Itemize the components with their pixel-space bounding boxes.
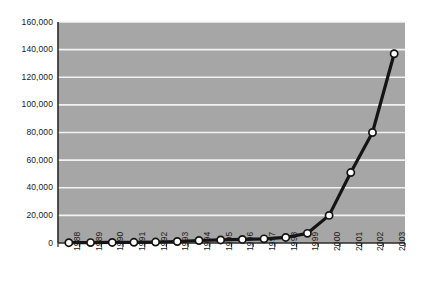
data-point-marker[interactable] xyxy=(391,50,398,57)
y-axis-tick-label: 0 xyxy=(48,239,53,248)
x-axis-tick-label: 1991 xyxy=(138,232,147,251)
y-axis-tick-label: 40,000 xyxy=(26,183,53,192)
y-axis-tick-label: 100,000 xyxy=(22,100,53,109)
x-axis-tick-label: 1996 xyxy=(246,232,255,251)
x-axis-tick-label: 1999 xyxy=(311,232,320,251)
y-axis-tick-label: 60,000 xyxy=(26,156,53,165)
data-point-marker[interactable] xyxy=(369,129,376,136)
data-point-marker[interactable] xyxy=(347,169,354,176)
chart-plot-svg xyxy=(0,0,425,298)
x-axis-tick-label: 1997 xyxy=(268,232,277,251)
x-axis-tick-label: 1992 xyxy=(160,232,169,251)
x-axis-tick-label: 2001 xyxy=(355,232,364,251)
x-axis-tick-label: 1989 xyxy=(95,232,104,251)
x-axis-tick-label: 1995 xyxy=(225,232,234,251)
data-point-marker[interactable] xyxy=(325,212,332,219)
y-axis-tick-label: 20,000 xyxy=(26,211,53,220)
x-axis-tick-label: 1994 xyxy=(203,232,212,251)
x-axis-tick-label: 1998 xyxy=(290,232,299,251)
y-axis-tick-label: 140,000 xyxy=(22,45,53,54)
y-axis-tick-label: 160,000 xyxy=(22,18,53,27)
x-axis-tick-label: 2000 xyxy=(333,232,342,251)
y-axis-tick-label: 80,000 xyxy=(26,128,53,137)
x-axis-tick-label: 2003 xyxy=(398,232,407,251)
x-axis-tick-label: 1990 xyxy=(116,232,125,251)
x-axis-tick-label: 2002 xyxy=(376,232,385,251)
y-axis-tick-label: 120,000 xyxy=(22,73,53,82)
x-axis-tick-label: 1993 xyxy=(181,232,190,251)
line-chart: 020,00040,00060,00080,000100,000120,0001… xyxy=(0,0,425,298)
x-axis-tick-label: 1988 xyxy=(73,232,82,251)
